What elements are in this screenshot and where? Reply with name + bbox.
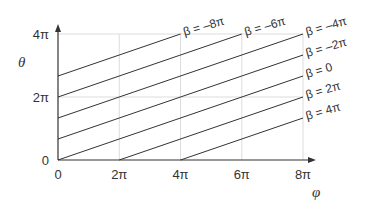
beta-label: β = 4π bbox=[304, 100, 342, 123]
beta-label: β = 2π bbox=[304, 79, 342, 102]
beta-label: β = 0 bbox=[304, 60, 334, 81]
beta-label: β = –8π bbox=[181, 14, 225, 39]
x-tick-label: 2π bbox=[111, 167, 127, 182]
y-tick-label: 0 bbox=[42, 153, 49, 168]
tick-labels: 02π4π6π8π02π4π bbox=[33, 27, 311, 182]
axes bbox=[55, 24, 316, 163]
beta-line bbox=[58, 34, 242, 97]
x-tick-label: 6π bbox=[234, 167, 250, 182]
x-axis-arrow bbox=[308, 157, 316, 163]
x-tick-label: 4π bbox=[172, 167, 188, 182]
beta-label: β = –2π bbox=[304, 35, 348, 60]
chart: 02π4π6π8π02π4π θ φ β = –8πβ = –6πβ = –4π… bbox=[0, 0, 367, 211]
beta-line bbox=[119, 97, 303, 160]
beta-label: β = –6π bbox=[243, 14, 287, 39]
x-axis-label: φ bbox=[312, 184, 320, 200]
y-axis-arrow bbox=[55, 24, 61, 32]
x-tick-label: 8π bbox=[295, 167, 311, 182]
y-tick-label: 2π bbox=[33, 90, 49, 105]
y-tick-label: 4π bbox=[33, 27, 49, 42]
y-axis-label: θ bbox=[18, 54, 26, 70]
x-tick-label: 0 bbox=[54, 167, 61, 182]
